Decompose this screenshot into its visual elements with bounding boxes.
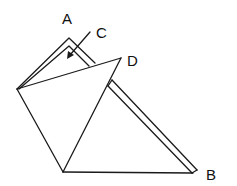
label-b: B <box>206 166 216 183</box>
strip-inner-to-b <box>108 86 192 173</box>
strip-outer-to-b <box>112 80 197 170</box>
bottom-edge <box>63 172 193 173</box>
diagram-canvas: A B C D <box>0 0 237 186</box>
front-face-right-edge <box>63 58 121 172</box>
left-edge <box>17 89 63 172</box>
label-d: D <box>127 52 138 69</box>
label-a: A <box>62 10 72 27</box>
arrow-c-shaft <box>70 32 90 55</box>
label-c: C <box>96 24 107 41</box>
